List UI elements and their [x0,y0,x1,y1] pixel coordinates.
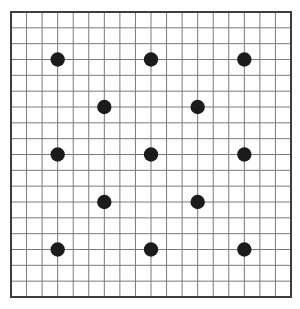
dot [50,147,64,161]
dot [50,52,64,66]
dot-grid-figure [0,0,300,309]
dot [97,100,111,114]
dot [190,100,204,114]
dot [50,242,64,256]
dot [97,195,111,209]
dot [144,52,158,66]
dot [190,195,204,209]
dot [144,242,158,256]
grid-paper-canvas [0,0,300,309]
dot [237,147,251,161]
dot [237,52,251,66]
dot [237,242,251,256]
dot [144,147,158,161]
